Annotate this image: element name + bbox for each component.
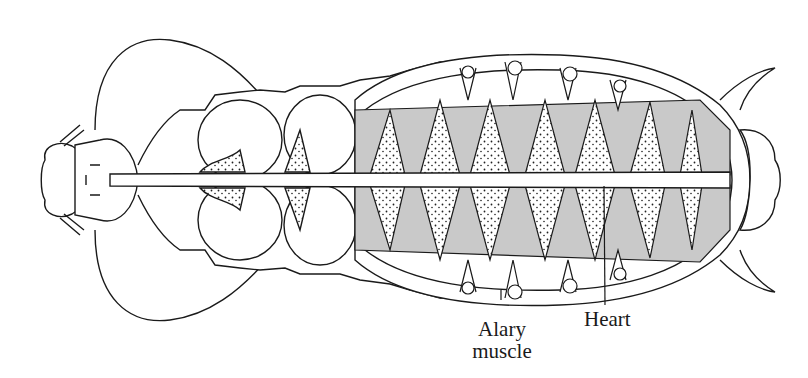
alary-muscle-label: Alary muscle — [464, 318, 540, 362]
heart-label: Heart — [584, 308, 631, 330]
heart-dorsal-vessel — [110, 172, 730, 188]
alary-muscle-label-line2: muscle — [464, 340, 540, 362]
insect-heart-diagram — [0, 0, 808, 378]
alary-muscle-label-line1: Alary — [464, 318, 540, 340]
